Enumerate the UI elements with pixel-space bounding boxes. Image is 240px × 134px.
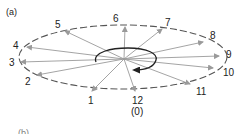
ray-arrow-4 [27, 47, 124, 59]
position-labels: 123456789101112(0) [9, 13, 235, 117]
position-label-11: 11 [196, 86, 207, 97]
position-sublabel-12: (0) [131, 106, 143, 117]
panel-a-label: (a) [6, 7, 17, 17]
position-label-10: 10 [223, 67, 235, 78]
ray-arrow-6 [124, 27, 125, 59]
position-label-4: 4 [13, 40, 19, 51]
position-label-7: 7 [165, 17, 171, 28]
position-label-1: 1 [88, 95, 94, 106]
ray-arrow-9 [124, 56, 219, 59]
position-label-12: 12 [132, 95, 144, 106]
position-label-9: 9 [226, 49, 232, 60]
position-label-5: 5 [55, 19, 61, 30]
position-label-8: 8 [210, 30, 216, 41]
ray-arrow-12 [124, 59, 135, 91]
panel-b-label: (b) [18, 128, 29, 134]
ray-arrow-10 [124, 59, 213, 68]
position-label-6: 6 [113, 13, 119, 24]
position-label-2: 2 [25, 76, 31, 87]
radial-arrows [21, 27, 219, 91]
position-label-3: 3 [9, 57, 15, 68]
ray-arrow-5 [65, 31, 124, 59]
rotation-diagram: (a) 123456789101112(0) (b) [0, 0, 240, 134]
